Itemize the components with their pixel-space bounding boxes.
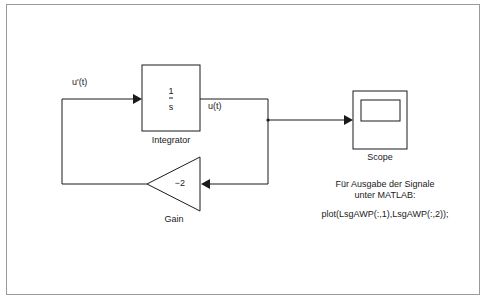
- integrator-denominator: s: [142, 102, 200, 113]
- integrator-label: Integrator: [130, 135, 212, 146]
- signal-label-input: u'(t): [72, 77, 87, 88]
- scope-label: Scope: [350, 152, 410, 163]
- arrow-into-gain-icon: [201, 179, 210, 189]
- arrow-into-integrator-icon: [133, 94, 142, 104]
- scope-screen-icon: [361, 100, 400, 121]
- gain-value: −2: [168, 178, 192, 189]
- note-line-2: unter MATLAB:: [300, 189, 470, 201]
- arrow-into-scope-icon: [344, 115, 353, 125]
- block-diagram-canvas: [0, 0, 487, 306]
- branch-point: [266, 118, 269, 121]
- note-matlab-command: plot(LsgAWP(:,1),LsgAWP(:,2));: [300, 208, 470, 220]
- gain-label: Gain: [152, 214, 196, 225]
- integrator-numerator: 1: [142, 86, 200, 97]
- signal-label-output: u(t): [208, 101, 222, 112]
